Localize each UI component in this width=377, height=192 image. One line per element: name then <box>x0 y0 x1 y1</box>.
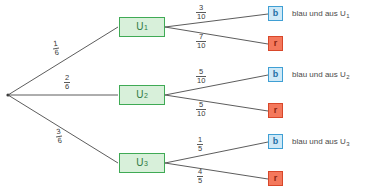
outcome-box-u2-blue[interactable]: b <box>268 67 283 82</box>
edge-u1-to-b <box>165 14 268 27</box>
node-u3[interactable]: U3 <box>119 153 165 173</box>
node-u1[interactable]: U1 <box>119 17 165 37</box>
outcome-description-subscript: 1 <box>346 13 349 19</box>
fraction-denominator: 6 <box>64 82 70 91</box>
fraction-numerator: 4 <box>197 168 203 176</box>
outcome-description-text: blau und aus U <box>292 70 346 79</box>
fraction-denominator: 10 <box>196 109 206 118</box>
node-u1-subscript: 1 <box>144 24 148 31</box>
probability-u3-to-r: 4 5 <box>197 168 203 185</box>
fraction-denominator: 10 <box>196 76 206 85</box>
fraction-denominator: 6 <box>56 135 63 145</box>
node-u3-subscript: 3 <box>144 160 148 167</box>
outcome-label-b: b <box>273 70 279 79</box>
probability-root-to-u2: 2 6 <box>64 74 70 91</box>
edge-u2-to-r <box>165 95 268 111</box>
outcome-box-u1-blue[interactable]: b <box>268 6 283 21</box>
outcome-description-text: blau und aus U <box>292 137 346 146</box>
edge-u3-to-b <box>165 142 268 163</box>
node-u2-subscript: 2 <box>144 92 148 99</box>
edge-u2-to-b <box>165 75 268 95</box>
probability-u3-to-b: 1 5 <box>197 136 203 153</box>
outcome-description-u1: blau und aus U1 <box>292 10 350 19</box>
outcome-description-u3: blau und aus U3 <box>292 138 350 147</box>
outcome-description-text: blau und aus U <box>292 9 346 18</box>
tree-edges <box>0 0 377 192</box>
outcome-box-u1-red[interactable]: r <box>268 36 283 51</box>
outcome-label-b: b <box>273 9 279 18</box>
fraction-numerator: 7 <box>196 33 206 41</box>
probability-u2-to-b: 5 10 <box>196 68 206 85</box>
fraction-numerator: 3 <box>196 4 206 12</box>
fraction-denominator: 5 <box>197 144 203 153</box>
node-u2[interactable]: U2 <box>119 85 165 105</box>
outcome-description-subscript: 2 <box>346 74 349 80</box>
fraction-denominator: 10 <box>196 12 206 21</box>
edge-u1-to-r <box>165 27 268 44</box>
node-u1-label: U <box>136 22 143 32</box>
edge-u3-to-r <box>165 163 268 179</box>
fraction-numerator: 5 <box>196 101 206 109</box>
fraction-denominator: 6 <box>53 47 60 57</box>
fraction-numerator: 2 <box>64 74 70 82</box>
node-u2-label: U <box>136 90 143 100</box>
outcome-label-r: r <box>274 106 278 115</box>
node-u3-label: U <box>136 158 143 168</box>
probability-u1-to-b: 3 10 <box>196 4 206 21</box>
outcome-label-r: r <box>274 39 278 48</box>
probability-u1-to-r: 7 10 <box>196 33 206 50</box>
edge-root-to-u3 <box>8 95 118 163</box>
edge-root-to-u1 <box>8 27 118 95</box>
fraction-numerator: 5 <box>196 68 206 76</box>
outcome-box-u3-blue[interactable]: b <box>268 134 283 149</box>
outcome-box-u2-red[interactable]: r <box>268 103 283 118</box>
probability-tree-diagram: U1 U2 U3 1 6 2 6 3 6 3 10 7 10 5 10 5 10… <box>0 0 377 192</box>
fraction-numerator: 1 <box>197 136 203 144</box>
fraction-denominator: 5 <box>197 176 203 185</box>
outcome-description-subscript: 3 <box>346 141 349 147</box>
outcome-label-r: r <box>274 174 278 183</box>
fraction-denominator: 10 <box>196 41 206 50</box>
outcome-label-b: b <box>273 137 279 146</box>
outcome-box-u3-red[interactable]: r <box>268 171 283 186</box>
probability-u2-to-r: 5 10 <box>196 101 206 118</box>
outcome-description-u2: blau und aus U2 <box>292 71 350 80</box>
